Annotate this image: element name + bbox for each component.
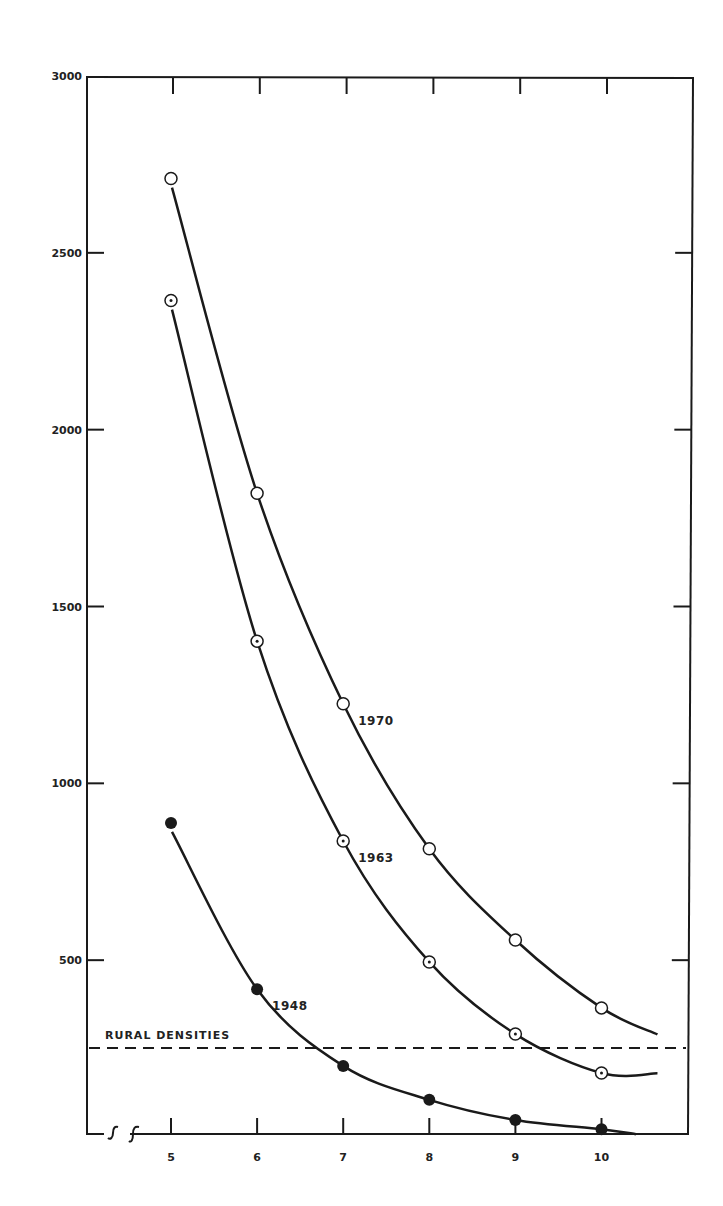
axis-break-icon — [108, 1127, 118, 1139]
series-label-1963: 1963 — [358, 851, 393, 865]
series-curves — [165, 173, 657, 1136]
marker-center-dot-icon — [256, 640, 259, 643]
reference-lines: RURAL DENSITIES — [89, 1029, 686, 1048]
marker-center-dot-icon — [600, 1071, 603, 1074]
x-tick-label: 10 — [594, 1151, 610, 1164]
x-tick-label: 7 — [339, 1151, 347, 1164]
filled-circle-marker-icon — [509, 1114, 521, 1126]
open-circle-marker-icon — [423, 843, 435, 855]
open-circle-marker-icon — [251, 487, 263, 499]
open-circle-marker-icon — [596, 1002, 608, 1014]
x-axis-ticks: 5678910 — [167, 78, 609, 1164]
x-tick-label: 8 — [425, 1151, 433, 1164]
y-tick-label: 3000 — [51, 70, 82, 83]
density-chart: 50010001500200025003000 5678910 RURAL DE… — [0, 0, 723, 1206]
filled-circle-marker-icon — [165, 817, 177, 829]
open-circle-marker-icon — [165, 173, 177, 185]
x-tick-label: 5 — [167, 1151, 175, 1164]
plot-frame — [87, 76, 693, 1142]
y-tick-label: 2500 — [51, 247, 82, 260]
curve-1963 — [172, 310, 657, 1076]
y-axis-ticks: 50010001500200025003000 — [51, 70, 692, 967]
series-label-1970: 1970 — [358, 714, 393, 728]
y-tick-label: 2000 — [51, 424, 82, 437]
y-tick-label: 1500 — [51, 601, 82, 614]
filled-circle-marker-icon — [337, 1060, 349, 1072]
open-circle-marker-icon — [337, 698, 349, 710]
filled-circle-marker-icon — [251, 983, 263, 995]
series-labels: 197019631948 — [272, 714, 394, 1013]
marker-center-dot-icon — [170, 299, 173, 302]
open-circle-marker-icon — [509, 934, 521, 946]
top-axis — [87, 77, 693, 78]
marker-center-dot-icon — [514, 1033, 517, 1036]
y-tick-label: 1000 — [51, 777, 82, 790]
filled-circle-marker-icon — [596, 1123, 608, 1135]
marker-center-dot-icon — [342, 839, 345, 842]
series-label-1948: 1948 — [272, 999, 307, 1013]
filled-circle-marker-icon — [423, 1094, 435, 1106]
curve-1970 — [172, 188, 657, 1035]
y-tick-label: 500 — [59, 954, 82, 967]
marker-center-dot-icon — [428, 960, 431, 963]
rural-densities-label: RURAL DENSITIES — [105, 1029, 230, 1042]
x-tick-label: 9 — [512, 1151, 520, 1164]
x-tick-label: 6 — [253, 1151, 261, 1164]
